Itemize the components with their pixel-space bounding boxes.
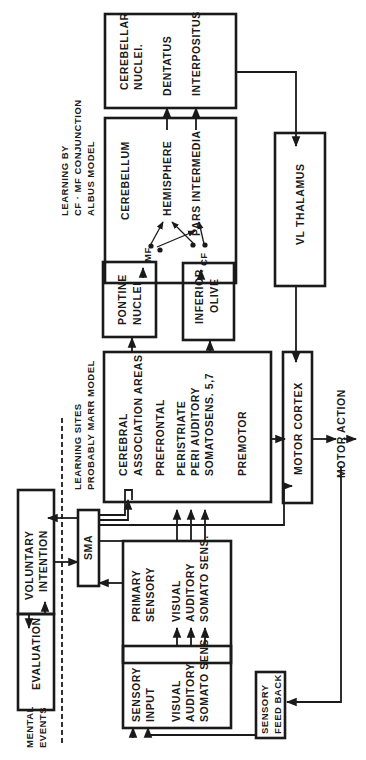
sensory-input-label-2: INPUT	[144, 688, 156, 723]
learning-by-line2: CF · MF CONJUNCTION	[72, 99, 83, 216]
peristriate-label: PERISTRIATE	[175, 401, 187, 476]
pontine-nuclei-box	[103, 262, 156, 337]
synapse-dot	[202, 242, 207, 247]
cerebellar-nuclei-subtitle: NUCLEI.	[132, 44, 144, 90]
intention-label: INTENTION	[37, 530, 49, 592]
learning-sites-line2: PROBABLY MARR MODEL	[85, 360, 96, 490]
somatosens-57-label: SOMATOSENS. 5,7	[203, 373, 215, 476]
primary-somato-label: SOMATO SENS.	[198, 535, 210, 622]
motor-cortex-label: MOTOR CORTEX	[292, 382, 304, 475]
olive-label: OLIVE	[208, 278, 220, 313]
synapse-dot	[157, 247, 162, 252]
sma-label: SMA	[82, 535, 94, 560]
mf-to-hemisphere-fibre	[151, 222, 163, 244]
learning-sites-line1: LEARNING SITES	[72, 403, 83, 490]
input-somato-label: SOMATO SENS.	[198, 635, 210, 722]
primary-label: PRIMARY	[130, 570, 142, 622]
prefrontal-label: PREFRONTAL	[154, 399, 166, 476]
motor-learning-diagram: CEREBELLAR NUCLEI. DENTATUS INTERPOSITUS…	[0, 0, 366, 760]
cf-label: CF	[198, 252, 209, 266]
learning-by-line1: LEARNING BY	[59, 145, 70, 216]
vl-thalamus-label: VL THALAMUS	[294, 163, 306, 245]
learning-by-line3: ALBUS MODEL	[85, 141, 96, 216]
input-visual-label: VISUAL	[170, 680, 182, 722]
peri-auditory-label: PERI AUDITORY	[189, 387, 201, 476]
pars-intermedia-label: PARS INTERMEDIA	[190, 130, 202, 236]
sensory-input-label-1: SENSORY	[130, 667, 142, 722]
nuclei-label: NUCLEI	[131, 282, 143, 325]
mf-label: MF	[142, 247, 153, 262]
dentatus-label: DENTATUS	[161, 36, 173, 96]
mental-label: MENTAL	[24, 706, 35, 748]
input-auditory-label: AUDITORY	[184, 663, 196, 722]
pontine-label: PONTINE	[116, 274, 128, 325]
primary-auditory-label: AUDITORY	[184, 563, 196, 622]
primary-visual-label: VISUAL	[170, 580, 182, 622]
evaluation-label: EVALUATION	[30, 617, 42, 690]
interpositus-label: INTERPOSITUS	[190, 11, 202, 96]
sensory-feedback-label-2: FEED BACK	[272, 674, 283, 734]
association-areas-label: ASSOCIATION AREAS	[132, 354, 144, 476]
nuclei-to-thalamus-arrow	[236, 72, 296, 146]
action-to-feedback-arrow	[287, 466, 341, 702]
premotor-label: PREMOTOR	[236, 411, 248, 476]
motor-action-label: MOTOR ACTION	[335, 389, 347, 478]
cerebellum-title: CEREBELLUM	[119, 141, 131, 220]
sensory-label: SENSORY	[144, 567, 156, 622]
synapse-dot	[190, 242, 195, 247]
inferior-label: INFERIOR	[193, 269, 205, 324]
cerebral-label: CEREBRAL	[117, 413, 129, 476]
voluntary-label: VOLUNTARY	[23, 530, 35, 600]
hemisphere-label: HEMISPHERE	[161, 141, 173, 216]
events-label: EVENTS	[37, 707, 48, 748]
sensory-feedback-label-1: SENSORY	[259, 684, 270, 734]
cerebellar-nuclei-title: CEREBELLAR	[118, 12, 130, 90]
